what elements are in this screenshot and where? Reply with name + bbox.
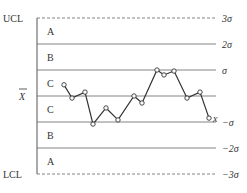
zone-labels: ABCCBA <box>47 26 55 167</box>
sigma-label: 3σ <box>221 13 233 24</box>
zone-label: C <box>47 104 54 115</box>
data-point-marker <box>198 90 202 94</box>
data-point-marker <box>140 101 144 105</box>
sigma-label: 2σ <box>222 39 233 50</box>
center-label: X <box>18 91 26 102</box>
data-point-marker <box>185 96 189 100</box>
data-point-marker <box>132 94 136 98</box>
control-chart: ABCCBA UCLXLCL 3σ2σσ−σ−2σ−3σ x <box>0 0 247 193</box>
lcl-label: LCL <box>3 169 22 180</box>
sigma-labels: 3σ2σσ−σ−2σ−3σ <box>221 13 240 180</box>
data-point-marker <box>116 118 120 122</box>
data-point-marker <box>207 116 211 120</box>
zone-label: B <box>47 52 54 63</box>
sigma-label: σ <box>222 65 228 76</box>
data-point-marker <box>91 122 95 126</box>
series-label: x <box>212 113 218 124</box>
data-point-marker <box>62 83 66 87</box>
data-point-marker <box>70 96 74 100</box>
data-point-marker <box>83 90 87 94</box>
data-point-marker <box>104 106 108 110</box>
zone-label: A <box>47 26 55 37</box>
data-point-marker <box>162 73 166 77</box>
ucl-label: UCL <box>3 13 23 24</box>
zone-label: B <box>47 130 54 141</box>
control-limit-labels: UCLXLCL <box>3 13 27 180</box>
sigma-label: −3σ <box>222 169 240 180</box>
data-point-marker <box>172 69 176 73</box>
data-point-marker <box>155 68 159 72</box>
sigma-label: −σ <box>222 117 235 128</box>
data-series: x <box>62 68 218 126</box>
sigma-lines <box>37 18 216 174</box>
zone-label: C <box>47 78 54 89</box>
zone-label: A <box>47 156 55 167</box>
sigma-label: −2σ <box>222 143 240 154</box>
